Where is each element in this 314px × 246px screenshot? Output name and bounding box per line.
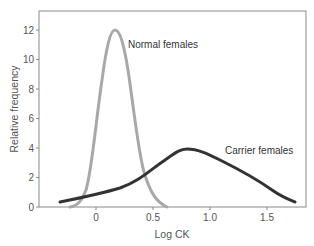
y-tick-label: 2	[28, 172, 34, 183]
y-tick-labels: 0 2 4 6 8 10 12	[23, 25, 35, 213]
y-tick-label: 6	[28, 113, 34, 124]
x-axis-title: Log CK	[154, 228, 189, 240]
y-tick-label: 10	[23, 54, 35, 65]
carrier-females-label: Carrier females	[225, 145, 293, 156]
x-tick-label: 1.0	[203, 212, 217, 223]
normal-females-curve	[70, 30, 167, 207]
y-tick-label: 12	[23, 25, 35, 36]
y-tick-label: 4	[28, 143, 34, 154]
y-axis-title: Relative frequency	[8, 65, 20, 153]
chart: 0 2 4 6 8 10 12 0 0.5 1.0 1.5 Log CK Rel…	[0, 0, 314, 246]
y-tick-label: 8	[28, 84, 34, 95]
x-tick-labels: 0 0.5 1.0 1.5	[93, 212, 274, 223]
x-tick-label: 0	[93, 212, 99, 223]
x-tick-label: 0.5	[146, 212, 160, 223]
y-tick-label: 0	[28, 202, 34, 213]
carrier-females-curve	[60, 149, 295, 202]
normal-females-label: Normal females	[128, 39, 198, 50]
x-tick-label: 1.5	[260, 212, 274, 223]
